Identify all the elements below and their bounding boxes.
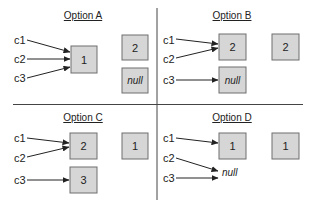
option-a-panel: Option A c1 c2 c3 1 2 null: [14, 10, 148, 93]
ref-c3-label: c3: [14, 174, 26, 186]
ref-c2-label: c2: [163, 152, 175, 164]
ref-c2-label: c2: [14, 152, 26, 164]
ref-c1-label: c1: [163, 34, 175, 46]
null-value: null: [127, 75, 143, 86]
option-b-panel: Option B c1 c2 c3 2 null 2: [163, 10, 299, 93]
object-value: 2: [282, 41, 288, 53]
option-c-title: Option C: [63, 112, 102, 123]
object-value: 1: [229, 140, 235, 152]
options-diagram: Option A c1 c2 c3 1 2 null Option B c1 c…: [0, 0, 311, 208]
option-d-title: Option D: [212, 112, 251, 123]
arrow-c1: [27, 138, 69, 143]
ref-c3-label: c3: [163, 74, 175, 86]
option-d-panel: Option D c1 c2 c3 1 1 null: [163, 112, 299, 184]
object-value: 1: [282, 140, 288, 152]
arrow-c2: [176, 158, 218, 171]
ref-c1-label: c1: [14, 132, 26, 144]
object-value: 2: [132, 42, 138, 54]
null-value: null: [222, 167, 238, 178]
arrow-c2: [27, 147, 69, 157]
arrow-c3: [27, 67, 70, 78]
arrow-c1: [176, 39, 218, 44]
ref-c3-label: c3: [163, 172, 175, 184]
null-value: null: [225, 75, 241, 86]
ref-c1-label: c1: [14, 34, 26, 46]
object-value: 3: [80, 174, 86, 186]
arrow-c2: [176, 48, 218, 58]
object-value: 1: [132, 140, 138, 152]
arrow-c1: [176, 138, 218, 143]
option-a-title: Option A: [64, 10, 103, 21]
ref-c3-label: c3: [14, 72, 26, 84]
option-c-panel: Option C c1 c2 c3 2 3 1: [14, 112, 148, 193]
ref-c2-label: c2: [14, 53, 26, 65]
object-value: 2: [229, 41, 235, 53]
ref-c2-label: c2: [163, 53, 175, 65]
ref-c1-label: c1: [163, 132, 175, 144]
object-value: 1: [81, 54, 87, 66]
object-value: 2: [80, 140, 86, 152]
option-b-title: Option B: [213, 10, 252, 21]
arrow-c1: [27, 40, 70, 52]
